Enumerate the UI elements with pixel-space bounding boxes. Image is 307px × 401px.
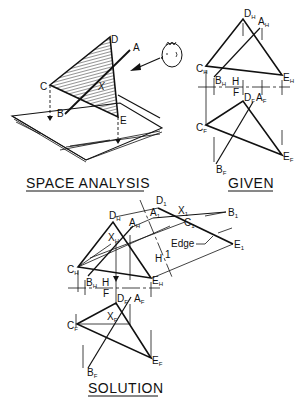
solution-fold-label-h: H	[102, 277, 109, 288]
given-line-ab-front	[216, 102, 253, 164]
label-c: C	[40, 81, 47, 92]
given-fold-label-h: H	[232, 76, 239, 87]
solution-label-b1: B1	[228, 207, 239, 219]
solution-label-df: DF	[117, 293, 128, 305]
solution-label-d1: D1	[156, 195, 167, 207]
given-label-af: AF	[256, 92, 267, 104]
given-label-bf: BF	[216, 164, 227, 176]
given-label-dh: DH	[244, 8, 256, 20]
diagram-canvas: C D A B E X SPACE ANALYSIS DH	[0, 0, 307, 401]
given-figure: DH AH CH EH BH H F DF AF CF EF BF GIVEN	[196, 8, 294, 191]
view-arrow-icon	[130, 63, 141, 71]
given-label-cf: CF	[196, 122, 207, 134]
solution-aux-projectors	[78, 208, 233, 278]
given-triangle-front	[206, 101, 282, 155]
label-a: A	[133, 42, 140, 53]
label-d: D	[111, 34, 118, 45]
solution-projector-arrow	[113, 276, 119, 282]
caption-given: GIVEN	[228, 175, 274, 191]
given-triangle-top	[206, 19, 282, 75]
solution-label-ah: AH	[129, 217, 140, 229]
solution-fold-label-f: F	[103, 288, 109, 299]
solution-fold1-label-1: 1	[165, 249, 171, 260]
solution-label-ch: CH	[67, 264, 79, 276]
given-label-eh: EH	[283, 72, 294, 84]
edge-leader	[196, 236, 213, 244]
caption-solution: SOLUTION	[88, 380, 164, 396]
solution-label-x1: X1	[178, 205, 189, 217]
solution-label-dh: DH	[109, 210, 121, 222]
solution-figure: D1 A1 X1 B1 C1 E1 Edge H 1 DH AH XH CH E…	[67, 195, 245, 396]
solution-label-xf: XF	[107, 311, 118, 323]
given-label-ah: AH	[258, 16, 269, 28]
solution-label-af: AF	[134, 293, 145, 305]
solution-label-bh: BH	[86, 277, 97, 289]
given-label-ef: EF	[283, 151, 294, 163]
solution-triangle-top	[78, 222, 151, 278]
given-label-ch: CH	[196, 63, 208, 75]
plane-cde	[50, 37, 118, 117]
solution-label-xh: XH	[108, 232, 119, 244]
label-e: E	[120, 115, 127, 126]
solution-label-cf: CF	[67, 320, 78, 332]
solution-triangle-front	[77, 303, 151, 358]
space-analysis-figure: C D A B E X SPACE ANALYSIS	[12, 34, 182, 191]
given-fold-label-f: F	[233, 87, 239, 98]
observer-face-icon	[161, 42, 182, 67]
solution-label-c1: C1	[184, 217, 195, 229]
solution-label-ef: EF	[152, 355, 163, 367]
solution-label-edge: Edge	[171, 238, 195, 249]
given-label-df: DF	[244, 92, 255, 104]
given-label-bh: BH	[215, 75, 226, 87]
solution-label-bf: BF	[87, 367, 98, 379]
label-x: X	[97, 81, 105, 92]
solution-fold1-label-h: H	[155, 253, 162, 264]
label-b: B	[57, 108, 64, 119]
solution-label-eh: EH	[152, 275, 163, 287]
caption-space-analysis: SPACE ANALYSIS	[26, 175, 150, 191]
solution-label-e1: E1	[234, 239, 245, 251]
